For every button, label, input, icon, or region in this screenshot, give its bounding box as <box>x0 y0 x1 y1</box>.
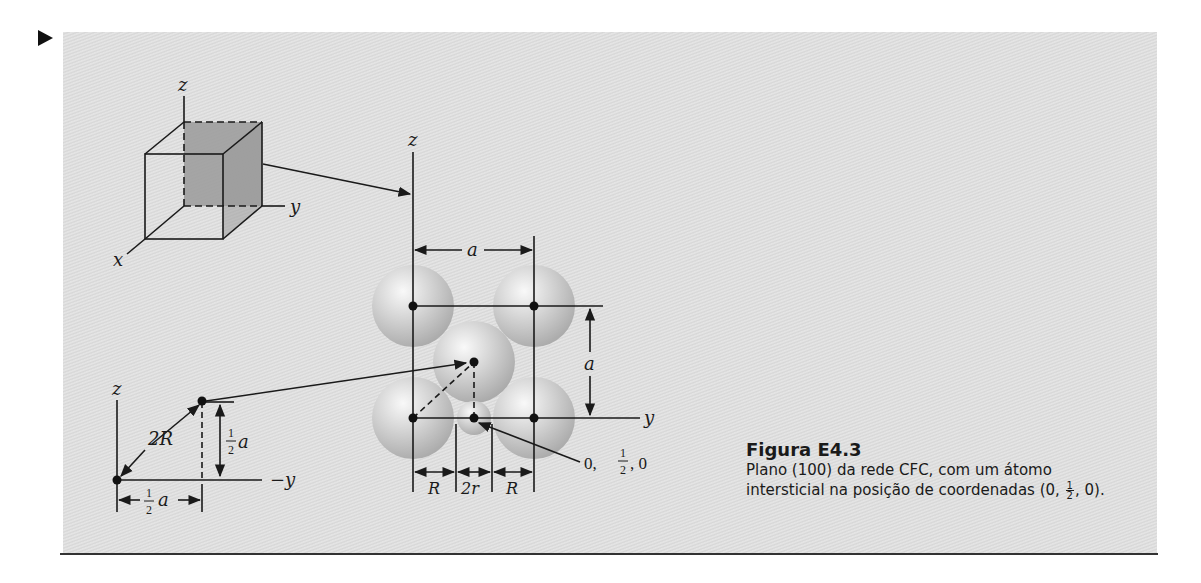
coord-prefix: 0, <box>584 454 597 473</box>
caption-line-1: Plano (100) da rede CFC, com um átomo <box>746 460 1156 480</box>
figure-caption: Figura E4.3 Plano (100) da rede CFC, com… <box>746 440 1156 500</box>
vertical-frac-den: 2 <box>228 443 234 457</box>
hypotenuse-2R-label: 2R <box>147 428 173 449</box>
caption-line-2: intersticial na posição de coordenadas (… <box>746 480 1156 500</box>
bottom-dim-2r: 2r <box>460 479 480 498</box>
vertical-frac-num: 1 <box>228 426 234 440</box>
horizontal-frac-num: 1 <box>146 486 152 500</box>
bottom-dim-R-left: R <box>427 479 440 498</box>
caption-title: Figura E4.3 <box>746 440 1156 460</box>
cube-axis-y-label: y <box>289 196 301 217</box>
caption-line-2-suffix: , 0). <box>1075 481 1105 499</box>
plane-axis-z-label: z <box>407 129 418 150</box>
side-dimension-a-label: a <box>584 353 595 374</box>
cube-axis-z-label: z <box>177 74 188 95</box>
triangle-axis-y-label: −y <box>270 469 296 490</box>
caption-line-2-prefix: intersticial na posição de coordenadas (… <box>746 481 1060 499</box>
plane-axis-y-label: y <box>643 407 655 428</box>
caption-fraction: 12 <box>1066 481 1074 500</box>
bottom-dim-R-right: R <box>505 479 518 498</box>
vertical-frac-var: a <box>238 431 249 452</box>
cube-axis-x-label: x <box>113 249 123 270</box>
caption-frac-den: 2 <box>1066 491 1074 500</box>
coord-frac-den: 2 <box>620 463 626 477</box>
plane-diagram <box>372 152 640 492</box>
cube-diagram <box>127 96 410 254</box>
horizontal-frac-den: 2 <box>146 503 152 517</box>
top-dimension-a-label: a <box>467 239 478 260</box>
coord-suffix: , 0 <box>630 454 647 473</box>
triangle-axis-z-label: z <box>111 378 122 399</box>
coord-frac-num: 1 <box>620 446 626 460</box>
horizontal-frac-var: a <box>158 489 169 510</box>
